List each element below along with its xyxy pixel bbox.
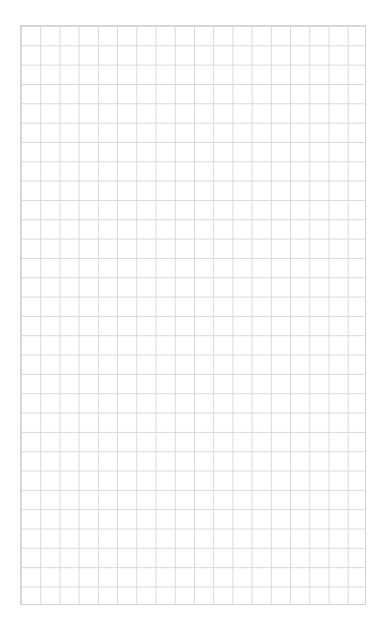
grid-paper [20, 25, 366, 605]
